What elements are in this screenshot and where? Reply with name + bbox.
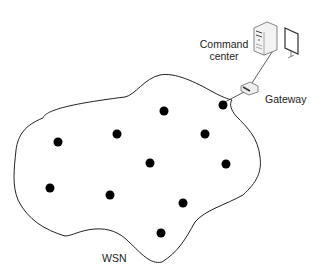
sensor-nodes — [46, 101, 231, 238]
sensor-node — [146, 159, 155, 168]
command-center-label: Command center — [199, 38, 249, 62]
command-center-label-line2: center — [199, 50, 249, 62]
sensor-node — [179, 199, 188, 208]
diagram-canvas — [0, 0, 313, 275]
monitor-icon — [285, 28, 298, 58]
sensor-node — [201, 130, 210, 139]
sensor-node — [160, 107, 169, 116]
sensor-node — [46, 184, 55, 193]
sensor-node — [54, 138, 63, 147]
gateway-label: Gateway — [265, 93, 306, 105]
server-icon — [254, 22, 277, 55]
sensor-node — [157, 229, 166, 238]
wsn-diagram: Command center Gateway WSN — [0, 0, 313, 275]
command-center-label-line1: Command — [199, 38, 249, 50]
sensor-node — [222, 160, 231, 169]
wsn-label: WSN — [102, 252, 127, 264]
sensor-node — [113, 130, 122, 139]
sensor-node — [106, 191, 115, 200]
gateway-icon — [241, 82, 258, 95]
gateway-node-link — [225, 92, 244, 102]
sensor-node — [219, 101, 228, 110]
